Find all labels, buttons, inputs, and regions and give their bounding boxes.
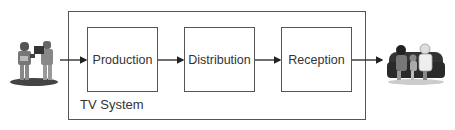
audience-on-couch-icon (385, 40, 447, 86)
camera-crew-icon (8, 38, 60, 88)
